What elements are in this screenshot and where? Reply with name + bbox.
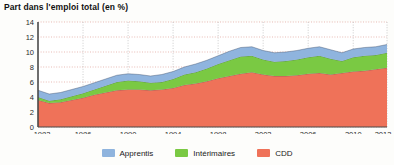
svg-text:1990: 1990 bbox=[120, 130, 137, 134]
svg-text:14: 14 bbox=[26, 18, 34, 27]
svg-text:2006: 2006 bbox=[300, 130, 317, 134]
svg-text:6: 6 bbox=[30, 78, 34, 87]
chart-container: Part dans l'emploi total (en %) 02468101… bbox=[0, 0, 394, 165]
legend-item-apprentis: Apprentis bbox=[102, 149, 154, 158]
svg-text:2002: 2002 bbox=[255, 130, 272, 134]
legend-item-interimaires: Intérimaires bbox=[175, 149, 235, 158]
legend-item-cdd: CDD bbox=[257, 149, 292, 158]
svg-text:12: 12 bbox=[26, 33, 34, 42]
plot-area: 0246810121419821986199019941998200220062… bbox=[0, 16, 394, 134]
svg-text:2013: 2013 bbox=[375, 130, 392, 134]
svg-text:2010: 2010 bbox=[345, 130, 362, 134]
stacked-area-chart: 0246810121419821986199019941998200220062… bbox=[0, 16, 394, 134]
legend-label-cdd: CDD bbox=[275, 149, 292, 158]
legend-label-interimaires: Intérimaires bbox=[193, 149, 235, 158]
legend-swatch-apprentis bbox=[102, 149, 115, 157]
svg-text:1998: 1998 bbox=[210, 130, 227, 134]
svg-text:1986: 1986 bbox=[75, 130, 92, 134]
legend-swatch-cdd bbox=[257, 149, 270, 157]
legend-swatch-interimaires bbox=[175, 149, 188, 157]
legend-label-apprentis: Apprentis bbox=[120, 149, 154, 158]
svg-text:10: 10 bbox=[26, 48, 34, 57]
svg-text:8: 8 bbox=[30, 63, 34, 72]
svg-text:2: 2 bbox=[30, 108, 34, 117]
svg-text:1982: 1982 bbox=[34, 130, 51, 134]
svg-text:4: 4 bbox=[30, 93, 34, 102]
chart-legend: Apprentis Intérimaires CDD bbox=[0, 143, 394, 163]
chart-title: Part dans l'emploi total (en %) bbox=[4, 2, 128, 12]
svg-text:1994: 1994 bbox=[165, 130, 182, 134]
